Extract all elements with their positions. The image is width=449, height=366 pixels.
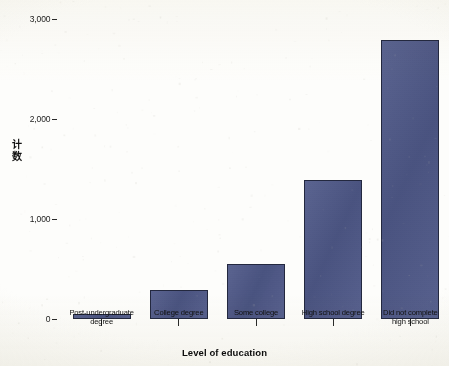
y-axis-tick-mark [52,319,57,320]
x-axis-category-label: College degree [136,309,222,318]
x-axis-category-label: Did not complete high school [367,309,449,326]
y-axis-tick-label: 1,000 [30,214,51,224]
y-axis-tick-label: 0 [46,314,51,324]
y-axis-tick-mark [52,219,57,220]
y-axis-title-char-1: 计 [10,139,24,151]
bar-chart: 01,0002,0003,000 计 数 Level of education … [0,0,449,366]
bar-slot [227,19,285,319]
x-axis-category-label: Post-undergraduate degree [59,309,145,326]
bar-slot [150,19,208,319]
y-axis-tick: 2,000 [0,114,57,124]
plot-area [63,19,449,319]
x-axis-category-label: High school degree [290,309,376,318]
bar-slot [381,19,439,319]
bar-series [63,19,449,319]
bar [381,40,439,319]
y-axis-tick: 1,000 [0,214,57,224]
y-axis-tick-label: 3,000 [30,14,51,24]
x-axis-tick-mark [256,319,257,326]
y-axis-tick-label: 2,000 [30,114,51,124]
y-axis-title-char-2: 数 [10,151,24,163]
y-axis-title: 计 数 [10,139,24,162]
x-axis-category-label: Some college [213,309,299,318]
y-axis-tick: 3,000 [0,14,57,24]
x-axis-tick-mark [333,319,334,326]
x-axis-tick-mark [178,319,179,326]
x-axis-title: Level of education [0,347,449,358]
bar [304,180,362,319]
y-axis-tick-mark [52,19,57,20]
bar-slot [304,19,362,319]
bar-slot [73,19,131,319]
y-axis-tick: 0 [0,314,57,324]
y-axis-tick-mark [52,119,57,120]
